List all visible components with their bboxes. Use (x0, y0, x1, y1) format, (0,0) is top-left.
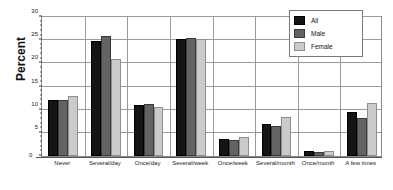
bar-group (127, 17, 170, 156)
bar[interactable] (271, 126, 281, 156)
bar[interactable] (367, 103, 377, 156)
y-tick-zero: 0 (29, 152, 32, 158)
legend-item-all[interactable]: All (294, 14, 358, 27)
bar[interactable] (304, 151, 314, 156)
bar-group (85, 17, 128, 156)
bar[interactable] (101, 36, 111, 156)
bar[interactable] (176, 39, 186, 156)
bar[interactable] (357, 118, 367, 156)
y-tick-label: 20 (31, 54, 42, 60)
y-tick-label: 5 (35, 124, 42, 130)
bar-group (170, 17, 213, 156)
bar[interactable] (58, 100, 68, 156)
bar[interactable] (196, 39, 206, 156)
chart-legend: All Male Female (289, 10, 363, 57)
legend-item-male[interactable]: Male (294, 27, 358, 40)
bar[interactable] (111, 59, 121, 156)
legend-label-female: Female (311, 43, 333, 50)
bar-group (213, 17, 256, 156)
y-tick-label: 15 (31, 78, 42, 84)
x-tick-label: Once/week (218, 160, 248, 166)
x-tick-label: Once/month (302, 160, 335, 166)
bar[interactable] (91, 41, 101, 156)
bar[interactable] (347, 112, 357, 156)
x-tick-label: Several/month (256, 160, 295, 166)
y-tick-label: 25 (31, 31, 42, 37)
bar[interactable] (48, 100, 58, 156)
bar[interactable] (219, 139, 229, 156)
legend-label-all: All (311, 17, 318, 24)
legend-swatch-icon-female (294, 42, 305, 51)
bar[interactable] (281, 117, 291, 156)
x-tick-label: Once/day (135, 160, 161, 166)
bar[interactable] (229, 140, 239, 156)
bar[interactable] (314, 152, 324, 156)
y-tick-label: 10 (31, 101, 42, 107)
bar[interactable] (134, 105, 144, 156)
x-tick-label: Several/week (172, 160, 208, 166)
bar[interactable] (262, 124, 272, 156)
x-tick-label: Never (54, 160, 70, 166)
x-axis-tick-labels: NeverSeveral/dayOnce/daySeveral/weekOnce… (41, 160, 382, 180)
x-tick-label: Several/day (89, 160, 121, 166)
bar-chart-figure: Percent 51015202530 0 NeverSeveral/dayOn… (0, 0, 393, 190)
bar-group (42, 17, 85, 156)
bar[interactable] (144, 104, 154, 156)
bar[interactable] (186, 38, 196, 156)
x-tick-label: A few times (345, 160, 376, 166)
bar[interactable] (154, 107, 164, 156)
x-axis-line (36, 157, 382, 158)
bar[interactable] (68, 96, 78, 156)
bar[interactable] (324, 151, 334, 156)
legend-item-female[interactable]: Female (294, 40, 358, 53)
legend-swatch-icon-all (294, 16, 305, 25)
bar[interactable] (239, 137, 249, 156)
legend-label-male: Male (311, 30, 325, 37)
y-tick-label: 30 (31, 8, 42, 14)
y-axis-title: Percent (14, 4, 28, 114)
legend-swatch-icon-male (294, 29, 305, 38)
